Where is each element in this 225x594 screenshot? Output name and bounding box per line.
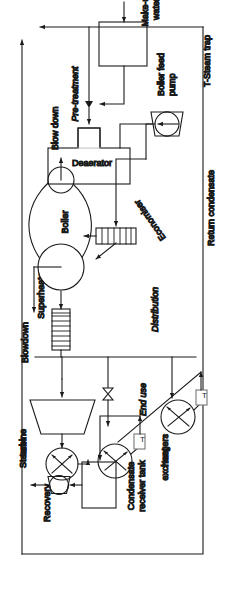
blowdown-label: Blowdown [20,322,30,363]
superheater-symbol [52,309,70,350]
svg-text:turbine: turbine [18,429,28,457]
svg-text:water: water [151,0,161,21]
steam-system-diagram: Return condensate Recovery Condensate re… [0,0,225,594]
heat-exchanger-condenser-symbol [46,448,78,480]
economiser-label: Economiser [132,198,167,243]
deaerator-to-pump-line [120,124,155,148]
condensate-pump-symbol [48,476,70,495]
svg-text:Make-up: Make-up [140,0,150,27]
svg-text:pump: pump [167,73,177,96]
steam-turbine-label: Steam turbine [18,429,28,468]
deaerator-neck-symbol [78,128,100,148]
make-up-water-label: Make-up water [140,0,161,27]
svg-text:exchangers: exchangers [160,434,170,481]
return-condensate-line [22,27,203,554]
heat-exchanger-2-symbol [98,444,132,478]
recovery-collect-line-2 [118,372,201,442]
boiler-label: Boiler [60,210,70,233]
steam-trap-1: T [134,434,145,449]
diagram-canvas: Return condensate Recovery Condensate re… [0,0,225,594]
heat-exchanger-3-symbol [161,400,195,434]
steam-turbine-symbol [30,400,95,434]
heat-exchangers-label: Heat exchangers [160,434,170,481]
pretreatment-out-line [100,66,124,104]
svg-text:T: T [140,435,145,444]
rotated-diagram-group: Return condensate Recovery Condensate re… [0,0,225,594]
valve-1-symbol [103,388,113,400]
svg-text:receiver tank: receiver tank [137,460,147,512]
deaerator-label: Deaerator [72,158,112,168]
economiser-leader [96,243,116,259]
steam-trap-2: T [196,390,207,405]
condensate-receiver-tank-symbol [82,462,116,508]
section-label-enduse: End use [138,383,148,416]
section-label-distribution: Distribution [150,287,160,332]
boiler-feed-pump-label: Boiler feed pump [156,53,177,96]
blow-down-label: Blow down [50,106,60,150]
economiser-symbol [96,228,136,244]
condensate-receiver-tank-label: Condensate receiver tank [126,460,147,512]
return-condensate-label: Return condensate [206,170,216,246]
legend-steam-trap: T-Steam trap [202,35,212,87]
svg-text:Condensate: Condensate [126,462,136,511]
svg-text:T: T [202,391,207,400]
svg-text:Boiler feed: Boiler feed [156,53,166,96]
boiler-feed-pump-symbol [151,112,183,136]
section-label-pretreatment: Pre-treatment [70,66,80,122]
pre-treatment-unit-symbol [99,22,147,66]
